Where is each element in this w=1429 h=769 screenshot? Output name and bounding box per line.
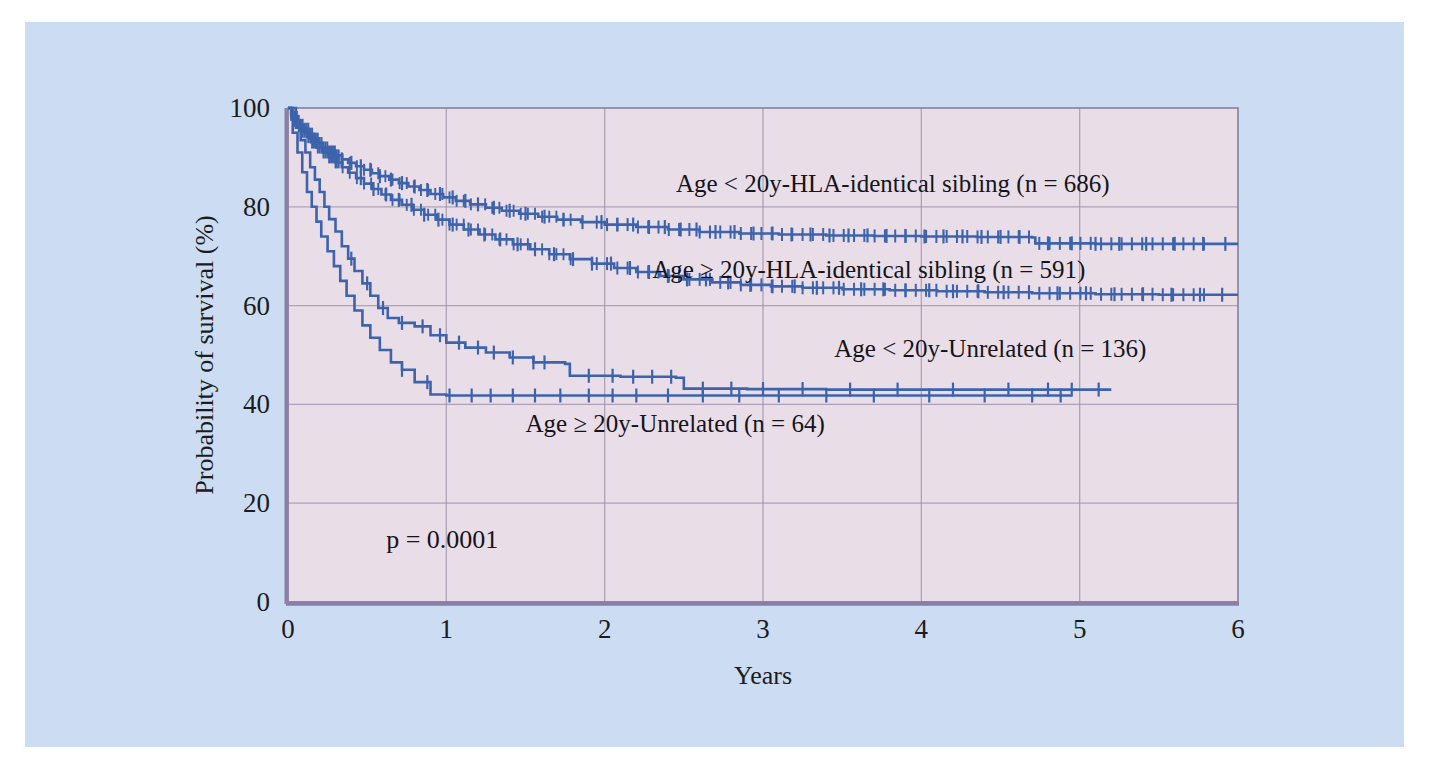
y-tick-label: 20 [243,488,270,518]
curve-label-0: Age < 20y-HLA-identical sibling (n = 686… [676,170,1110,198]
curve-label-1: Age ≥ 20y-HLA-identical sibling (n = 591… [652,256,1085,284]
y-axis-tick-labels: 020406080100 [230,93,271,617]
survival-chart: 0123456 020406080100 Age < 20y-HLA-ident… [0,0,1429,769]
y-tick-label: 60 [243,291,270,321]
p-value-annotation: p = 0.0001 [386,525,498,554]
x-tick-label: 5 [1073,614,1087,644]
curve-label-2: Age < 20y-Unrelated (n = 136) [834,335,1146,363]
figure-canvas: 0123456 020406080100 Age < 20y-HLA-ident… [0,0,1429,769]
chart-container: 0123456 020406080100 Age < 20y-HLA-ident… [0,0,1429,769]
curve-label-3: Age ≥ 20y-Unrelated (n = 64) [526,410,825,438]
x-tick-label: 2 [598,614,612,644]
y-tick-label: 80 [243,192,270,222]
y-tick-label: 100 [230,93,271,123]
x-axis-title: Years [734,661,792,690]
x-tick-label: 1 [440,614,454,644]
y-tick-label: 0 [257,587,271,617]
x-tick-label: 3 [756,614,770,644]
y-tick-label: 40 [243,389,270,419]
y-axis-title: Probability of survival (%) [190,215,219,494]
x-axis-tick-labels: 0123456 [281,614,1245,644]
x-tick-label: 6 [1231,614,1245,644]
p-value-text: p = 0.0001 [386,525,498,554]
x-tick-label: 4 [915,614,929,644]
x-tick-label: 0 [281,614,295,644]
